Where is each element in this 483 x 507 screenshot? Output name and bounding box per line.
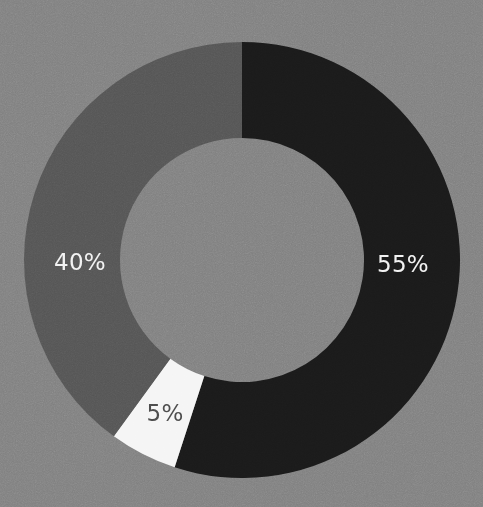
donut-slice xyxy=(24,42,242,436)
slice-label-0: 55% xyxy=(377,251,429,277)
slice-label-2: 40% xyxy=(54,249,106,275)
donut-chart: 55% 5% 40% xyxy=(0,0,483,507)
slice-label-1: 5% xyxy=(146,400,183,426)
